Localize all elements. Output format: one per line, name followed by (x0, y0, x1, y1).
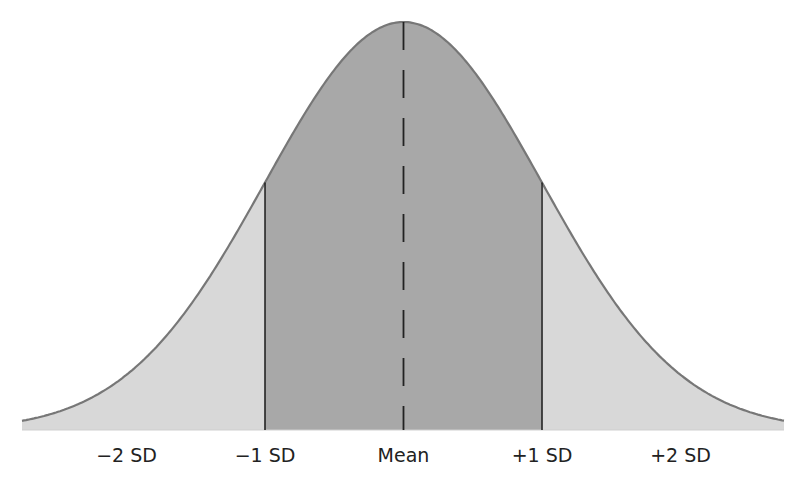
tick-label-minus-1-sd: −1 SD (235, 444, 296, 466)
left-tail-region (22, 184, 265, 430)
tick-label-mean: Mean (378, 444, 430, 466)
right-tail-region (542, 183, 784, 431)
axis-labels: −2 SD −1 SD Mean +1 SD +2 SD (96, 444, 711, 466)
tick-label-minus-2-sd: −2 SD (96, 444, 157, 466)
tick-label-plus-1-sd: +1 SD (512, 444, 573, 466)
normal-distribution-diagram: −2 SD −1 SD Mean +1 SD +2 SD (0, 0, 807, 480)
tick-label-plus-2-sd: +2 SD (650, 444, 711, 466)
